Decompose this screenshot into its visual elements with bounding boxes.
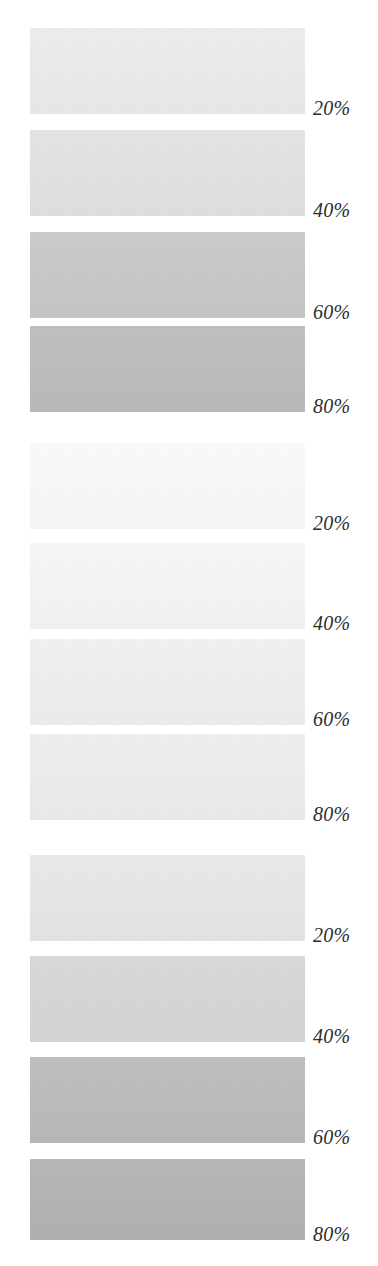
tint-percentage-label: 60%: [313, 302, 375, 322]
tint-row: 20%: [0, 28, 378, 114]
tint-percentage-label: 20%: [313, 925, 375, 945]
tint-row: 40%: [0, 543, 378, 629]
tint-row: 80%: [0, 326, 378, 412]
tint-swatch: [30, 1159, 305, 1240]
tint-swatch: [30, 956, 305, 1042]
tint-chart-sheet: 20%40%60%80%20%40%60%80%20%40%60%80%: [0, 0, 378, 1266]
tint-row: 60%: [0, 639, 378, 725]
tint-swatch: [30, 734, 305, 820]
tint-percentage-label: 80%: [313, 804, 375, 824]
tint-swatch: [30, 443, 305, 529]
tint-row: 60%: [0, 232, 378, 318]
tint-row: 40%: [0, 956, 378, 1042]
tint-group-2: 20%40%60%80%: [0, 443, 378, 820]
tint-group-1: 20%40%60%80%: [0, 28, 378, 412]
tint-group-3: 20%40%60%80%: [0, 855, 378, 1240]
tint-swatch: [30, 1057, 305, 1143]
tint-percentage-label: 60%: [313, 709, 375, 729]
tint-swatch: [30, 28, 305, 114]
tint-percentage-label: 20%: [313, 98, 375, 118]
tint-swatch: [30, 130, 305, 216]
tint-row: 20%: [0, 855, 378, 941]
tint-row: 80%: [0, 734, 378, 820]
tint-row: 60%: [0, 1057, 378, 1143]
tint-row: 80%: [0, 1159, 378, 1240]
tint-swatch: [30, 326, 305, 412]
tint-percentage-label: 20%: [313, 513, 375, 533]
tint-swatch: [30, 543, 305, 629]
tint-swatch: [30, 855, 305, 941]
tint-swatch: [30, 639, 305, 725]
tint-percentage-label: 40%: [313, 200, 375, 220]
tint-percentage-label: 80%: [313, 1224, 375, 1244]
tint-swatch: [30, 232, 305, 318]
tint-row: 40%: [0, 130, 378, 216]
tint-row: 20%: [0, 443, 378, 529]
tint-percentage-label: 60%: [313, 1127, 375, 1147]
tint-percentage-label: 40%: [313, 1026, 375, 1046]
tint-percentage-label: 40%: [313, 613, 375, 633]
tint-percentage-label: 80%: [313, 396, 375, 416]
